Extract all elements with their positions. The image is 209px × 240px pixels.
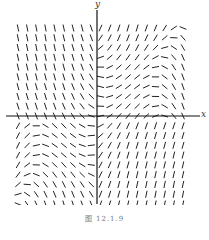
slope-segment [99, 35, 103, 40]
slope-segment [88, 135, 94, 136]
slope-segment [90, 45, 92, 51]
slope-segment [136, 142, 138, 148]
slope-segment [17, 133, 20, 139]
slope-segment [172, 104, 176, 109]
slope-segment [164, 201, 165, 205]
slope-segment [63, 44, 65, 50]
slope-segment [36, 54, 37, 60]
slope-segment [127, 191, 128, 197]
slope-segment [118, 201, 120, 205]
slope-segment [79, 163, 85, 166]
slope-segment [164, 142, 166, 148]
slope-segment [70, 153, 75, 157]
slope-segment [146, 152, 148, 158]
slope-segment [62, 124, 66, 129]
slope-segment [137, 181, 138, 187]
slope-segment [126, 94, 131, 98]
slope-segment [171, 46, 176, 50]
slope-segment [135, 94, 140, 98]
slope-segment [135, 75, 140, 79]
slope-segment [80, 182, 84, 187]
slope-segment [26, 103, 28, 109]
slope-segment [154, 25, 156, 31]
slope-segment [26, 64, 28, 70]
slope-segment [108, 143, 111, 149]
slope-segment [107, 105, 113, 108]
slope-segment [44, 182, 48, 187]
slope-segment [45, 93, 47, 99]
slope-segment [17, 64, 18, 70]
slope-segment [88, 165, 94, 166]
slope-segment [54, 54, 56, 60]
slope-segment [182, 181, 183, 187]
slope-segment [146, 181, 147, 187]
slope-segment [181, 45, 184, 51]
slope-segment [35, 201, 38, 205]
slope-segment [99, 182, 102, 188]
slope-segment [72, 54, 74, 60]
slope-segment [63, 35, 65, 41]
slope-segment [127, 45, 130, 51]
slope-segment [52, 153, 57, 157]
slope-segment [118, 172, 120, 178]
slope-segment [61, 153, 66, 157]
slope-segment [62, 182, 65, 188]
slope-segment [63, 201, 65, 205]
slope-segment [89, 182, 94, 187]
slope-segment [127, 133, 129, 139]
slope-segment [182, 84, 184, 90]
slope-segment [43, 124, 48, 127]
slope-segment [72, 94, 75, 100]
slope-segment [173, 172, 174, 178]
slope-segment [107, 55, 112, 59]
slope-segment [35, 192, 39, 197]
slope-segment [145, 123, 147, 129]
slope-segment [79, 134, 85, 137]
slope-segment [99, 201, 101, 205]
slope-segment [173, 152, 175, 158]
slope-segment [182, 64, 184, 70]
slope-segment [80, 172, 85, 177]
slope-segment [108, 162, 111, 168]
slope-segment [136, 45, 139, 51]
slope-segment [144, 95, 150, 98]
slope-segment [173, 162, 175, 168]
slope-segment [17, 152, 20, 158]
slope-segment [43, 134, 49, 137]
slope-segment [146, 191, 147, 197]
slope-segment [144, 75, 150, 78]
slope-segment [27, 44, 28, 50]
slope-segment [72, 74, 74, 80]
slope-segment [146, 201, 147, 205]
slope-segment [99, 172, 102, 178]
slope-segment [63, 191, 65, 197]
slope-segment [90, 35, 92, 41]
slope-segment [90, 54, 93, 60]
slope-segment [45, 25, 46, 31]
slope-segment [164, 181, 165, 187]
slope-segment [79, 154, 85, 156]
slope-segment [182, 201, 183, 205]
slope-segment [54, 74, 56, 80]
slope-segment [17, 103, 19, 109]
slope-segment [182, 172, 183, 178]
slope-segment [72, 64, 74, 70]
slope-segment [107, 66, 113, 69]
slope-segment [136, 133, 138, 139]
slope-segment [63, 64, 65, 70]
slope-segment [97, 76, 103, 77]
slope-segment [118, 142, 121, 148]
slope-segment [17, 25, 18, 31]
slope-segment [72, 25, 74, 31]
slope-segment [81, 94, 84, 100]
slope-segment [72, 45, 74, 51]
slope-segment [108, 123, 112, 128]
slope-segment [99, 143, 103, 148]
slope-segment [16, 123, 19, 129]
slope-segment [26, 74, 28, 80]
slope-segment [34, 182, 39, 186]
slope-segment [98, 56, 104, 58]
slope-segment [118, 181, 120, 187]
slope-segment [63, 54, 65, 60]
slope-segment [36, 74, 38, 80]
